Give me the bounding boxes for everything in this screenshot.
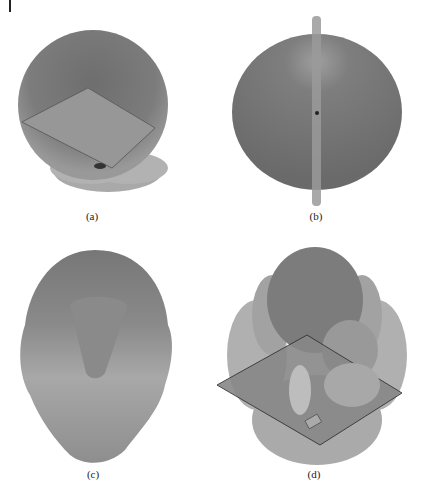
radiation-pattern-c — [0, 245, 212, 498]
panel-d: (d) — [212, 245, 423, 498]
radiation-pattern-b — [212, 0, 423, 240]
radiation-pattern-d — [212, 245, 423, 498]
panel-a: (a) — [0, 0, 212, 240]
caption-b: (b) — [296, 210, 336, 222]
panel-c: (c) — [0, 245, 212, 498]
radiation-pattern-a — [0, 0, 212, 240]
caption-a: (a) — [72, 210, 112, 222]
caption-d: (d) — [294, 468, 334, 480]
panel-b: (b) — [212, 0, 423, 240]
caption-c: (c) — [73, 468, 113, 480]
